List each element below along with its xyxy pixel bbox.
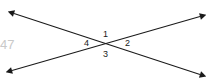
watermark-text: 47 bbox=[0, 38, 14, 51]
angle-label-4: 4 bbox=[84, 39, 89, 48]
line-upper-left-to-lower-right bbox=[14, 14, 200, 75]
intersecting-lines-figure: 47 1 2 3 4 bbox=[0, 0, 212, 82]
line-lower-left-to-upper-right bbox=[12, 17, 200, 71]
angle-label-1: 1 bbox=[103, 30, 108, 39]
geometry-diagram bbox=[0, 0, 212, 82]
angle-label-2: 2 bbox=[125, 39, 130, 48]
angle-label-3: 3 bbox=[103, 50, 108, 59]
